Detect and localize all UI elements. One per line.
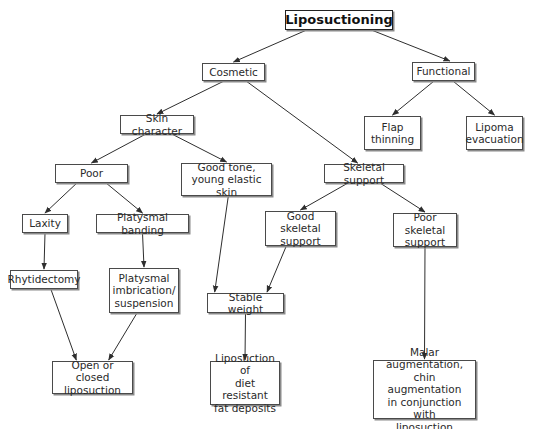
node-poor-skeletal-support: Poor skeletal support xyxy=(393,213,457,247)
edge-skin-character-to-poor xyxy=(92,134,146,163)
node-poor: Poor xyxy=(55,164,128,183)
node-liposuction-diet-resistant: Liposuction of diet resistant fat deposi… xyxy=(210,361,280,405)
node-good-tone: Good tone, young elastic skin xyxy=(181,163,272,196)
edge-platysmal-imbrication-to-open-closed-liposuction xyxy=(109,313,137,360)
node-malar-augmentation: Malar augmentation, chin augmentation in… xyxy=(373,360,476,419)
node-skin-character: Skin character xyxy=(120,115,194,134)
edge-functional-to-flap-thinning xyxy=(393,81,435,115)
edge-skeletal-support-to-good-skeletal-support xyxy=(301,183,349,210)
node-skeletal-support: Skeletal support xyxy=(324,164,404,183)
edge-liposuctioning-to-functional xyxy=(371,30,449,61)
liposuction-flowchart: Liposuctioning Cosmetic Functional Flap … xyxy=(0,0,535,429)
edge-functional-to-lipoma-evacuation xyxy=(453,81,495,115)
edge-poor-to-platysmal-banding xyxy=(106,183,142,213)
edge-liposuctioning-to-cosmetic xyxy=(234,30,307,62)
edge-rhytidectomy-to-open-closed-liposuction xyxy=(51,289,77,360)
node-liposuctioning: Liposuctioning xyxy=(285,10,393,30)
node-good-skeletal-support: Good skeletal support xyxy=(265,211,336,246)
edge-poor-skeletal-support-to-malar-augmentation xyxy=(425,247,426,359)
edge-skin-character-to-good-tone xyxy=(172,134,227,162)
edge-cosmetic-to-skeletal-support xyxy=(246,81,358,163)
edge-skeletal-support-to-poor-skeletal-support xyxy=(380,183,425,212)
node-stable-weight: Stable weight xyxy=(207,293,284,313)
node-cosmetic: Cosmetic xyxy=(202,63,265,81)
edge-poor-to-laxity xyxy=(45,183,77,213)
edge-good-skeletal-support-to-stable-weight xyxy=(267,246,286,292)
edge-good-tone-to-stable-weight xyxy=(215,196,229,292)
node-platysmal-imbrication: Platysmal imbrication/ suspension xyxy=(109,268,179,313)
node-platysmal-banding: Platysmal banding xyxy=(96,214,189,233)
node-open-closed-liposuction: Open or closed liposuction xyxy=(52,361,133,394)
node-laxity: Laxity xyxy=(22,214,68,233)
node-flap-thinning: Flap thinning xyxy=(364,116,421,150)
edge-cosmetic-to-skin-character xyxy=(157,81,224,114)
edge-platysmal-banding-to-platysmal-imbrication xyxy=(143,233,145,267)
node-lipoma-evacuation: Lipoma evacuation xyxy=(466,116,523,150)
node-functional: Functional xyxy=(412,62,475,81)
node-rhytidectomy: Rhytidectomy xyxy=(10,270,78,289)
edge-laxity-to-rhytidectomy xyxy=(44,233,45,269)
